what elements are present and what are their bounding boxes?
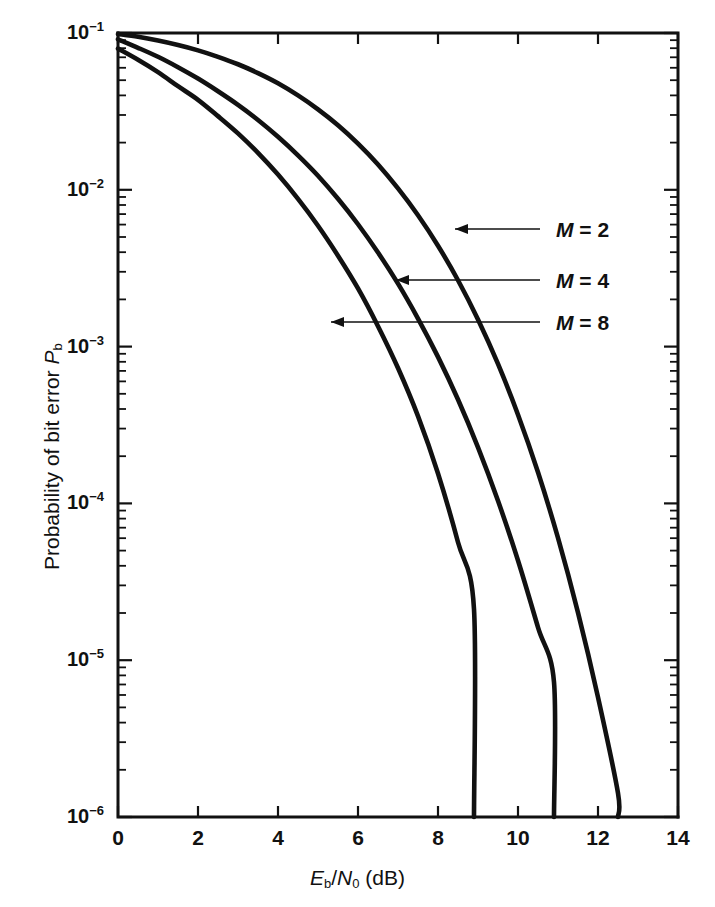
y-tick-label: 10−5 [34, 646, 104, 671]
y-tick-label: 10−2 [34, 176, 104, 201]
x-tick-label: 14 [648, 826, 708, 850]
x-tick-label: 12 [568, 826, 628, 850]
annotation-arrow-icon [455, 224, 468, 234]
x-tick-label: 2 [168, 826, 228, 850]
x-tick-label: 6 [328, 826, 388, 850]
y-axis-title: Probability of bit error Pb [40, 343, 64, 570]
x-tick-label: 10 [488, 826, 548, 850]
axis-frame-top-right [118, 33, 678, 817]
y-tick-label: 10−1 [34, 19, 104, 44]
x-tick-label: 0 [88, 826, 148, 850]
series-label: M = 2 [556, 218, 609, 242]
axis-frame-left-bottom [118, 33, 678, 817]
y-tick-label: 10−6 [34, 803, 104, 828]
series-label: M = 4 [556, 269, 609, 293]
x-tick-label: 4 [248, 826, 308, 850]
figure-container: 02468101214 10−110−210−310−410−510−6 M =… [0, 0, 715, 907]
series-curve [118, 49, 475, 817]
x-tick-label: 8 [408, 826, 468, 850]
series-curve [118, 39, 555, 817]
series-curve [118, 34, 619, 817]
x-axis-title: Eb/N0 (dB) [0, 866, 715, 890]
series-label: M = 8 [556, 311, 609, 335]
chart-plot-area [0, 0, 715, 907]
annotation-arrow-icon [331, 317, 344, 327]
